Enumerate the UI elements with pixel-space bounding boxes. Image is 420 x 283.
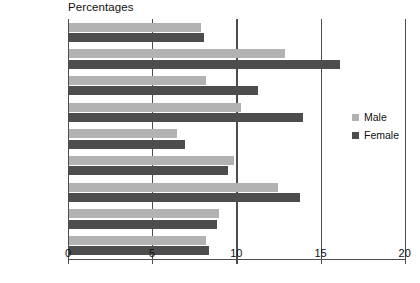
- plot-right-border: [405, 19, 406, 259]
- bar-male-jewish: [69, 129, 177, 138]
- bar-male-muslim: [69, 49, 284, 58]
- x-tick: [405, 259, 406, 264]
- bar-male-total: [69, 236, 205, 245]
- bar-female-no-religion: [69, 220, 217, 229]
- x-tick-label: 15: [314, 247, 326, 259]
- legend-item-female: Female: [352, 126, 399, 144]
- x-tick-label: 5: [149, 247, 155, 259]
- bar-female-muslim: [69, 60, 340, 69]
- legend-swatch-male-icon: [352, 114, 359, 121]
- gridline: [321, 19, 322, 259]
- bar-female-buddhist: [69, 166, 227, 175]
- legend-swatch-female-icon: [352, 132, 359, 139]
- bar-female-christian: [69, 33, 204, 42]
- x-tick: [68, 259, 69, 264]
- bar-male-hindu: [69, 76, 205, 85]
- legend-label-male: Male: [364, 111, 387, 123]
- bar-chart: Percentages ChristianMuslimHinduSikhJewi…: [0, 0, 420, 283]
- bar-male-christian: [69, 23, 200, 32]
- chart-title: Percentages: [68, 1, 134, 13]
- bar-male-no-religion: [69, 209, 219, 218]
- x-tick-label: 10: [230, 247, 242, 259]
- bar-male-sikh: [69, 103, 241, 112]
- bar-female-jewish: [69, 140, 185, 149]
- x-tick: [321, 259, 322, 264]
- legend-label-female: Female: [364, 129, 399, 141]
- bar-female-hindu: [69, 86, 258, 95]
- bar-male-buddhist: [69, 156, 234, 165]
- x-tick-label: 0: [65, 247, 71, 259]
- x-tick: [236, 259, 237, 264]
- x-tick-label: 20: [399, 247, 411, 259]
- legend-item-male: Male: [352, 108, 399, 126]
- bar-male-other: [69, 183, 278, 192]
- bar-female-other: [69, 193, 300, 202]
- x-tick: [152, 259, 153, 264]
- bar-female-total: [69, 246, 209, 255]
- legend: Male Female: [352, 108, 399, 144]
- bar-female-sikh: [69, 113, 303, 122]
